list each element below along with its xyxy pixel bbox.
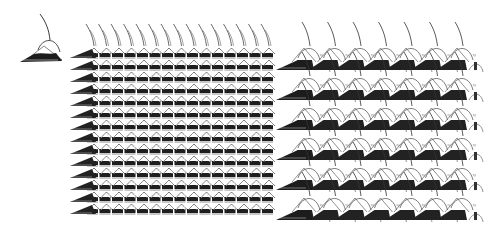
dense-tile <box>187 144 200 154</box>
dense-tile <box>137 156 150 166</box>
dense-tile <box>250 192 263 202</box>
dense-tile <box>112 84 125 94</box>
dense-tile <box>225 144 238 154</box>
dense-tile <box>262 108 275 118</box>
dense-tile <box>100 180 113 190</box>
dense-tile <box>262 84 275 94</box>
dense-tile <box>112 180 125 190</box>
dense-tile <box>250 132 263 142</box>
dense-tile <box>200 180 213 190</box>
dense-tile <box>187 156 200 166</box>
dense-tile <box>100 96 113 106</box>
dense-tile <box>237 108 250 118</box>
dense-tile <box>187 168 200 178</box>
dense-tile <box>237 120 250 130</box>
dense-tile <box>212 156 225 166</box>
dense-tile <box>162 60 175 70</box>
dense-tile <box>212 168 225 178</box>
dense-tile <box>212 120 225 130</box>
dense-tile <box>100 48 113 58</box>
dense-tile <box>225 204 238 214</box>
dense-tile <box>162 108 175 118</box>
dense-tile <box>200 48 213 58</box>
dense-tile <box>175 48 188 58</box>
dense-tile <box>262 144 275 154</box>
dense-tile <box>200 60 213 70</box>
dense-tile <box>262 192 275 202</box>
dense-tile <box>112 108 125 118</box>
dense-tile <box>237 84 250 94</box>
dense-tile <box>250 180 263 190</box>
dense-tile <box>212 48 225 58</box>
dense-tile <box>212 192 225 202</box>
dense-tile <box>237 156 250 166</box>
dense-tile <box>150 96 163 106</box>
dense-tile <box>112 144 125 154</box>
dense-tile <box>187 192 200 202</box>
dense-tile <box>212 204 225 214</box>
dense-tile <box>125 180 138 190</box>
dense-tile <box>225 120 238 130</box>
dense-tile <box>175 156 188 166</box>
dense-tile <box>137 180 150 190</box>
dense-tile <box>175 168 188 178</box>
dense-tile <box>125 96 138 106</box>
dense-tile <box>187 72 200 82</box>
dense-tile <box>112 192 125 202</box>
dense-tile <box>100 120 113 130</box>
dense-tile <box>237 60 250 70</box>
dense-tile <box>187 132 200 142</box>
dense-tile <box>262 156 275 166</box>
dense-tile <box>125 84 138 94</box>
dense-tile <box>137 132 150 142</box>
dense-tile <box>237 132 250 142</box>
dense-tile <box>125 132 138 142</box>
dense-tile <box>137 120 150 130</box>
dense-tile <box>125 72 138 82</box>
dense-tile <box>162 132 175 142</box>
dense-tile <box>212 180 225 190</box>
dense-tile <box>225 48 238 58</box>
dense-tile <box>162 72 175 82</box>
dense-tile <box>187 60 200 70</box>
dense-tile <box>150 204 163 214</box>
dense-tile <box>225 168 238 178</box>
dense-tile <box>125 192 138 202</box>
dense-tile <box>200 168 213 178</box>
dense-tile <box>162 96 175 106</box>
dense-tile <box>150 60 163 70</box>
dense-tile <box>187 120 200 130</box>
dense-tile <box>175 120 188 130</box>
dense-tile <box>112 96 125 106</box>
dense-tile <box>125 48 138 58</box>
dense-tile <box>150 144 163 154</box>
dense-tile <box>150 192 163 202</box>
dense-tile <box>200 96 213 106</box>
dense-tile <box>262 60 275 70</box>
dense-tile <box>100 192 113 202</box>
dense-tile <box>125 204 138 214</box>
dense-tile <box>262 180 275 190</box>
dense-tile <box>262 72 275 82</box>
dense-tile <box>200 84 213 94</box>
dense-tile <box>150 132 163 142</box>
dense-tile <box>125 144 138 154</box>
dense-tile <box>162 144 175 154</box>
dense-tile <box>100 132 113 142</box>
dense-tile <box>162 120 175 130</box>
dense-tile <box>100 156 113 166</box>
dense-tile <box>250 48 263 58</box>
dense-tile <box>200 144 213 154</box>
dense-tile <box>137 204 150 214</box>
dense-tile <box>162 168 175 178</box>
dense-tiling-panel <box>70 24 275 214</box>
dense-tile <box>200 120 213 130</box>
tiling-figure: ty Scanned figure showing a single proto… <box>0 0 504 229</box>
dense-tile <box>262 132 275 142</box>
dense-tile <box>200 156 213 166</box>
dense-tile <box>175 180 188 190</box>
dense-tile <box>112 48 125 58</box>
dense-tile <box>212 132 225 142</box>
sparse-tiling-panel <box>276 22 483 222</box>
dense-tile <box>125 120 138 130</box>
